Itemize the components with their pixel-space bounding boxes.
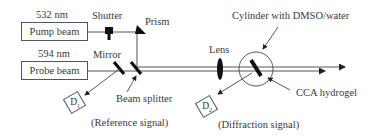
reference-signal-arrow (85, 70, 118, 95)
beam-splitter-icon (131, 62, 141, 74)
prism-label: Prism (145, 17, 170, 28)
diffraction-signal-label: (Diffraction signal) (218, 120, 299, 131)
probe-beam-label: Probe beam (30, 65, 80, 76)
cylinder-label: Cylinder with DMSO/water (232, 11, 349, 22)
lens-label: Lens (209, 45, 229, 56)
beam-splitter-label: Beam splitter (116, 94, 172, 105)
pump-wavelength-label: 532 nm (36, 10, 68, 21)
probe-wavelength-label: 594 nm (38, 49, 70, 60)
pump-beam-label: Pump beam (30, 26, 80, 37)
mirror-label: Mirror (93, 50, 121, 61)
cca-hydrogel-label: CCA hydrogel (296, 88, 357, 99)
shutter-icon (105, 27, 113, 40)
lens-icon (217, 58, 223, 80)
hydrogel-pointer (268, 78, 290, 90)
probe-beam-box: Probe beam (21, 61, 88, 80)
cca-hydrogel-icon (251, 60, 261, 76)
pump-beam-box: Pump beam (21, 22, 88, 41)
reference-signal-label: (Reference signal) (91, 118, 168, 129)
beam-splitter-pointer (127, 76, 136, 92)
cylinder-pointer (263, 27, 278, 49)
shutter-label: Shutter (92, 11, 122, 22)
